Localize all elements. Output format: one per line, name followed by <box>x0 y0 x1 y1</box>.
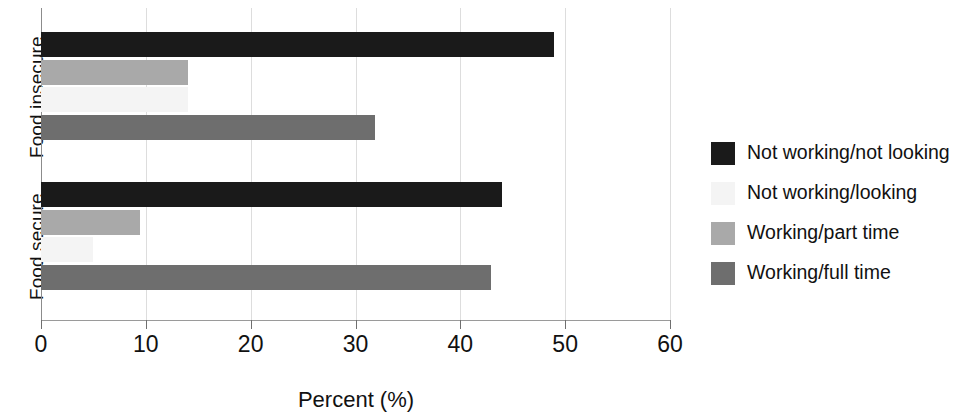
gridline <box>670 8 671 320</box>
bar <box>41 210 140 235</box>
bar <box>41 60 188 85</box>
x-axis-tick <box>565 320 566 329</box>
bar <box>41 32 554 57</box>
legend-item-label: Working/full time <box>747 263 891 283</box>
bar <box>41 115 375 140</box>
legend-item: Not working/looking <box>711 173 973 213</box>
x-axis-tick <box>41 320 42 329</box>
bar-chart-figure: Food insecure Food secure 0102030405060 … <box>0 0 978 418</box>
x-axis-tick <box>670 320 671 329</box>
legend-item: Not working/not looking <box>711 133 973 173</box>
legend-item-label: Working/part time <box>747 223 899 243</box>
x-axis-tick <box>251 320 252 329</box>
legend-swatch-icon <box>711 262 735 285</box>
bar <box>41 182 502 207</box>
plot-area <box>41 8 670 320</box>
legend-item-label: Not working/not looking <box>747 143 950 163</box>
legend-swatch-icon <box>711 222 735 245</box>
bar <box>41 237 93 262</box>
x-axis-tick <box>146 320 147 329</box>
legend-swatch-icon <box>711 142 735 165</box>
x-axis-tick <box>460 320 461 329</box>
legend-swatch-icon <box>711 182 735 205</box>
x-axis-tick-label: 10 <box>133 331 159 358</box>
legend-item: Working/part time <box>711 213 973 253</box>
x-axis-tick-label: 0 <box>35 331 48 358</box>
x-axis-tick-label: 40 <box>448 331 474 358</box>
bar <box>41 87 188 112</box>
bar <box>41 265 491 290</box>
gridline <box>565 8 566 320</box>
x-axis-tick-label: 50 <box>552 331 578 358</box>
x-axis-tick-label: 30 <box>343 331 369 358</box>
x-axis-tick <box>356 320 357 329</box>
legend: Not working/not lookingNot working/looki… <box>711 133 973 293</box>
x-axis-tick-label: 20 <box>238 331 264 358</box>
legend-item: Working/full time <box>711 253 973 293</box>
legend-item-label: Not working/looking <box>747 183 917 203</box>
x-axis-tick-label: 60 <box>657 331 683 358</box>
x-axis-title: Percent (%) <box>41 387 671 413</box>
